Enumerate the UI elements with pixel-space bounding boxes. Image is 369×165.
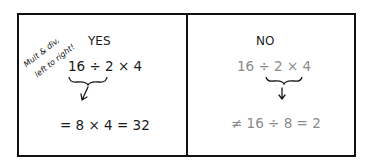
no-brace-icon: [266, 77, 302, 84]
yes-arrow-icon: [81, 87, 88, 100]
no-arrow-icon: [279, 88, 285, 99]
yes-brace-icon: [69, 77, 107, 85]
annotation-marks: [0, 0, 369, 165]
